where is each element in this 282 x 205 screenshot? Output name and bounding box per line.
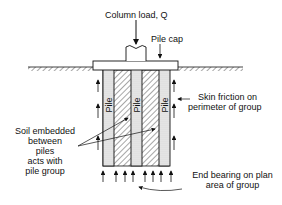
pile-label-3: Pile: [160, 97, 170, 112]
soil-line-3: piles: [10, 146, 80, 156]
soil-embedded-label: Soil embedded between piles acts with pi…: [10, 126, 80, 176]
end-bearing-line-1: End bearing on plan: [185, 170, 280, 180]
column-stub: [126, 46, 146, 62]
column-load-label: Column load, Q: [105, 10, 168, 20]
pile-label-2: Pile: [132, 97, 142, 112]
soil-line-2: between: [10, 136, 80, 146]
soil-line-1: Soil embedded: [10, 126, 80, 136]
end-bearing-label: End bearing on plan area of group: [185, 170, 280, 190]
soil-line-5: pile group: [10, 166, 80, 176]
skin-friction-line-1: Skin friction on: [176, 92, 262, 102]
end-bearing-line-2: area of group: [185, 180, 280, 190]
pile-cap: [93, 61, 178, 70]
skin-friction-label: Skin friction on perimeter of group: [176, 92, 262, 112]
soil-line-4: acts with: [10, 156, 80, 166]
pile-cap-label: Pile cap: [151, 34, 183, 44]
pile-label-1: Pile: [104, 97, 114, 112]
skin-friction-line-2: perimeter of group: [176, 102, 262, 112]
piles: [103, 67, 170, 166]
